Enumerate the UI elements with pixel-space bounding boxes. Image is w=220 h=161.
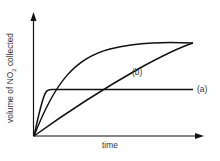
curve-a — [34, 90, 193, 137]
x-axis-label: time — [102, 140, 118, 150]
y-axis-label: volume of NO2 collected — [5, 33, 17, 123]
curve-b-label: (b) — [132, 67, 142, 77]
x-axis-arrow-icon — [195, 133, 204, 139]
y-axis-arrow-icon — [31, 12, 37, 21]
chart-canvas — [0, 0, 220, 161]
curve-a-label: (a) — [197, 84, 207, 94]
